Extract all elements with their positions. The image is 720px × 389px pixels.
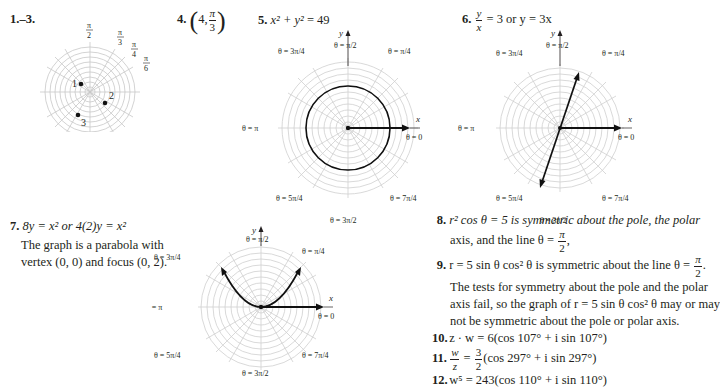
point-label-1: 1 <box>72 78 77 89</box>
point-label-3: 3 <box>81 117 86 128</box>
svg-text:y: y <box>251 226 256 235</box>
label-theta-pi: θ = π <box>242 124 258 133</box>
item-9-line4: not be symmetric about the pole or polar… <box>432 313 668 330</box>
point-2 <box>103 101 108 106</box>
label-theta-0: θ = 0 <box>406 133 422 142</box>
polar-plot-item-6: y x θ = π/2 θ = 3π/4 θ = π/4 θ = π θ = 0… <box>452 26 662 234</box>
label-theta-3pi-2: θ = 3π/2 <box>242 369 269 378</box>
svg-text:y: y <box>550 28 555 38</box>
label-theta-7pi-4: θ = 7π/4 <box>390 194 417 203</box>
svg-text:4: 4 <box>132 50 136 59</box>
label-theta-pi-2: θ = π/2 <box>546 41 569 50</box>
angle-label-pi-6: π <box>144 54 148 63</box>
label-theta-pi-2: θ = π/2 <box>246 235 269 244</box>
label-theta-pi-4: θ = π/4 <box>388 47 411 56</box>
svg-text:x: x <box>627 114 632 124</box>
item-12: 12. w⁵ = 243(cos 110° + i sin 110°) <box>432 372 668 389</box>
svg-text:6: 6 <box>144 64 148 73</box>
point-3 <box>76 113 81 118</box>
angle-label-pi-2: π <box>87 21 91 30</box>
svg-text:y: y <box>338 28 343 38</box>
item-8-line2: axis, and the line θ = π2, <box>432 229 668 254</box>
item-9-line3: axis fail, so the graph of r = 5 sin θ c… <box>432 296 668 313</box>
polar-plot-item-7: y x θ = π/2 θ = 3π/4 θ = π/4 θ = π θ = 0… <box>150 226 380 379</box>
item-9-line2: The tests for symmetry about the pole an… <box>432 279 668 296</box>
label-theta-5pi-4: θ = 5π/4 <box>154 351 181 360</box>
items-8-12: 8. r² cos θ = 5 is symmetric about the p… <box>432 212 668 389</box>
item-10: 10. z · w = 6(cos 107° + i sin 107°) <box>432 330 668 347</box>
label-theta-pi-2: θ = π/2 <box>334 41 357 50</box>
point-1 <box>79 82 84 87</box>
svg-text:3: 3 <box>118 38 122 47</box>
angle-label-pi-3: π <box>118 28 122 37</box>
polar-plot-items-1-3: π 2 π 3 π 4 π 6 1 2 3 <box>28 14 168 132</box>
item-7-equation: 7. 8y = x² or 4(2)y = x² <box>10 218 126 235</box>
polar-plot-item-5: y x θ = π/2 θ = 3π/4 θ = π/4 θ = π θ = 0… <box>240 26 450 234</box>
label-theta-pi-4: θ = π/4 <box>302 247 325 256</box>
svg-text:2: 2 <box>87 31 91 40</box>
item-11: 11. wz = 32(cos 297° + i sin 297°) <box>432 347 668 372</box>
label-theta-0: θ = 0 <box>618 133 634 142</box>
label-theta-pi-4: θ = π/4 <box>602 49 625 58</box>
label-theta-7pi-4: θ = 7π/4 <box>602 194 629 203</box>
label-theta-3pi-4: θ = 3π/4 <box>154 253 181 262</box>
label-theta-0: θ = 0 <box>318 312 334 321</box>
label-theta-3pi-4: θ = 3π/4 <box>496 49 523 58</box>
label-theta-pi: θ = π <box>150 303 162 312</box>
item-4: 4. (4,π3) <box>177 8 226 33</box>
item-8-line1: 8. r² cos θ = 5 is symmetric about the p… <box>432 212 668 229</box>
polar-grid <box>40 42 140 132</box>
item-7-description-line1: The graph is a parabola with <box>21 237 164 254</box>
item-9-line1: 9. r = 5 sin θ cos² θ is symmetric about… <box>432 254 668 279</box>
svg-text:x: x <box>328 293 333 303</box>
angle-label-pi-4: π <box>132 40 136 49</box>
label-theta-pi: θ = π <box>458 124 474 133</box>
label-theta-5pi-4: θ = 5π/4 <box>496 194 523 203</box>
svg-text:x: x <box>415 114 420 124</box>
label-theta-7pi-4: θ = 7π/4 <box>302 351 329 360</box>
item-7-description-line2: vertex (0, 0) and focus (0, 2). <box>21 254 167 271</box>
label-theta-3pi-4: θ = 3π/4 <box>278 47 305 56</box>
label-theta-5pi-4: θ = 5π/4 <box>276 194 303 203</box>
point-label-2: 2 <box>109 90 114 101</box>
label-theta-3pi-2: θ = 3π/2 <box>330 216 357 225</box>
